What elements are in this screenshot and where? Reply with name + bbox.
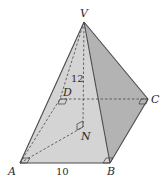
label-b: B <box>106 165 115 178</box>
label-base-edge: 10 <box>56 166 69 177</box>
label-n: N <box>80 130 91 143</box>
label-c: C <box>151 93 160 106</box>
pyramid-svg: V A B C D N 12 10 <box>0 0 168 185</box>
label-height: 12 <box>71 73 84 84</box>
label-a: A <box>7 165 16 178</box>
label-d: D <box>62 86 72 99</box>
label-v: V <box>80 7 89 20</box>
pyramid-diagram: V A B C D N 12 10 <box>0 0 168 185</box>
